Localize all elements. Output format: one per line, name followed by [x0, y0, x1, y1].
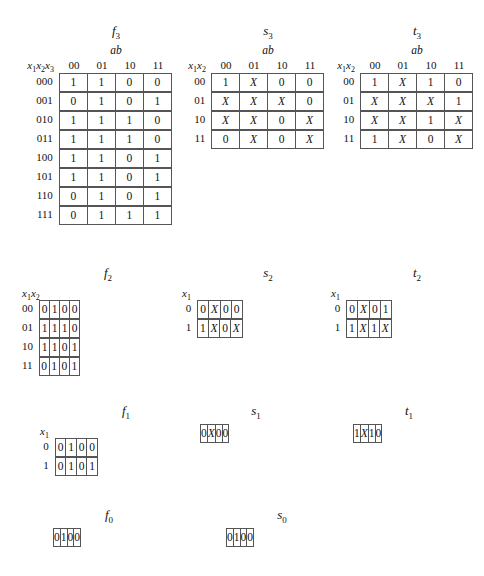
cell-f3-r0-c0: 1: [59, 74, 87, 92]
table-row: 0100: [53, 528, 81, 547]
row-label-s3-0: 00: [182, 73, 211, 90]
cell-strip-s2-0: 0X00: [197, 300, 242, 319]
table-grid-f2: x1x2000100011110101101110101: [22, 286, 80, 376]
cell-strip-s3-2: XX0X: [211, 111, 324, 130]
table-title-f2: f2: [52, 266, 164, 285]
cell-f3-r4-c0: 1: [59, 150, 87, 168]
cell-strip-f2-2: 1101: [39, 338, 80, 357]
table-row: 10101: [40, 457, 98, 476]
cell-s0-r0-c1: 1: [233, 529, 240, 547]
cell-s2-r1-c3: X: [230, 320, 242, 338]
table-row: 00100: [40, 438, 98, 457]
cell-f3-r6-c1: 1: [87, 188, 115, 206]
cell-s3-r3-c3: X: [295, 131, 323, 149]
cell-s3-r0-c0: 1: [212, 74, 240, 92]
cell-f3-r2-c1: 1: [87, 112, 115, 130]
cell-s1-r0-c2: 0: [215, 425, 222, 443]
row-label-t3-2: 10: [331, 111, 360, 128]
cell-f1-r0-c2: 0: [76, 439, 87, 457]
cell-strip-s3-1: XXX0: [211, 92, 324, 111]
table-title-t1: t1: [353, 404, 465, 423]
cell-f2-r1-c2: 1: [60, 320, 70, 338]
cell-f3-r5-c1: 1: [87, 169, 115, 187]
cell-f0-r0-c3: 0: [74, 529, 81, 547]
title-sub-f2: 2: [108, 273, 113, 283]
cell-f3-r0-c2: 0: [115, 74, 143, 92]
cell-f2-r1-c3: 0: [70, 320, 80, 338]
column-header-s3-2: 10: [268, 58, 296, 73]
table-grid-s0: 0100: [226, 528, 254, 547]
row-label-s2-1: 1: [182, 319, 197, 336]
cell-strip-f1-1: 0101: [55, 457, 98, 476]
cell-strip-f3-0: 1100: [59, 73, 172, 92]
cell-f3-r7-c0: 0: [59, 207, 87, 225]
cell-f2-r1-c0: 1: [40, 320, 50, 338]
table-row: 01XXX0: [182, 92, 324, 111]
title-sub-t2: 2: [417, 273, 422, 283]
cell-strip-t2-1: 1X1X: [346, 319, 391, 338]
column-header-t3-2: 10: [417, 58, 445, 73]
cell-strip-f0-0: 0100: [53, 528, 81, 547]
table-row: 111X0X: [331, 130, 473, 149]
cell-strip-s2-1: 1X0X: [197, 319, 242, 338]
table-title-f1: f1: [70, 404, 182, 423]
row-variable-row-f1: x1: [40, 424, 98, 438]
row-label-s3-2: 10: [182, 111, 211, 128]
cell-f3-r3-c2: 1: [115, 131, 143, 149]
table-row: 00X00: [182, 300, 243, 319]
cell-f3-r6-c3: 1: [143, 188, 171, 206]
row-variable-label-s3: x1x2: [182, 58, 212, 73]
cell-s3-r0-c3: 0: [296, 74, 324, 92]
cell-f3-r7-c3: 1: [143, 207, 171, 225]
cell-f2-r3-c3: 1: [69, 358, 79, 376]
cell-f3-r4-c2: 0: [115, 150, 143, 168]
row-label-t2-1: 1: [331, 319, 346, 336]
row-label-t2-0: 0: [331, 300, 346, 317]
title-sub-t3: 3: [417, 31, 422, 41]
cell-f3-r2-c3: 0: [143, 112, 171, 130]
table-title-t2: t2: [361, 266, 473, 285]
cell-strip-t3-2: XX1X: [360, 111, 473, 130]
cell-f0-r0-c1: 1: [60, 529, 67, 547]
column-group-label-s3: ab: [212, 44, 324, 56]
row-label-f2-1: 01: [22, 319, 39, 336]
title-sub-f0: 0: [109, 515, 114, 525]
table-row: 0001100: [14, 73, 172, 92]
cell-t1-r0-c0: 1: [354, 425, 361, 443]
cell-strip-s1-0: 0X00: [200, 424, 229, 443]
cell-f2-r0-c1: 1: [50, 301, 60, 319]
cell-t3-r2-c3: X: [444, 112, 472, 130]
row-variable-label-f1: x1: [40, 424, 70, 438]
cell-strip-t2-0: 0X01: [346, 300, 391, 319]
cell-t2-r1-c1: X: [357, 320, 369, 338]
table-title-s3: s3: [212, 24, 324, 43]
cell-t2-r1-c2: 1: [369, 320, 380, 338]
table-body-f1: 0010010101: [40, 438, 98, 476]
cell-f1-r0-c1: 1: [66, 439, 77, 457]
cell-t3-r0-c2: 1: [417, 74, 445, 92]
table-row: 1110111: [14, 206, 172, 225]
table-grid-f1: x10010010101: [40, 424, 98, 476]
cell-f2-r3-c0: 0: [39, 358, 49, 376]
title-sub-s1: 1: [256, 411, 261, 421]
table-title-f0: f0: [53, 508, 165, 527]
cell-t3-r3-c2: 0: [417, 131, 445, 149]
cell-strip-f3-3: 1110: [59, 130, 172, 149]
table-grid-f3: x1x2x30001101100011000010101010111001111…: [14, 58, 172, 225]
cell-f3-r7-c2: 1: [115, 207, 143, 225]
table-title-s2: s2: [212, 266, 324, 285]
column-header-f3-0: 00: [60, 58, 88, 73]
table-title-t3: t3: [361, 24, 473, 43]
cell-t2-r0-c0: 0: [347, 301, 358, 319]
cell-f2-r3-c1: 1: [49, 358, 59, 376]
column-header-row-s3: x1x200011011: [182, 58, 324, 73]
title-sub-s3: 3: [268, 31, 273, 41]
cell-f2-r3-c2: 0: [59, 358, 69, 376]
cell-strip-t1-0: 1X10: [353, 424, 382, 443]
table-body-s3: 001X0001XXX010XX0X110X0X: [182, 73, 324, 149]
cell-t3-r0-c3: 0: [445, 74, 473, 92]
cell-s2-r0-c2: 0: [220, 301, 231, 319]
title-sub-f3: 3: [116, 31, 121, 41]
cell-strip-f3-1: 0101: [59, 92, 172, 111]
cell-s3-r2-c0: X: [212, 112, 240, 130]
